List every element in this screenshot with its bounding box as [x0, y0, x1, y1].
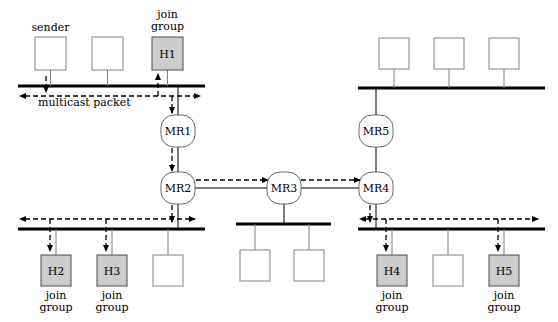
- router-mr4-label: MR4: [363, 182, 390, 195]
- top-right-host-1-box: [379, 38, 409, 69]
- router-mr1-label: MR1: [165, 125, 192, 138]
- bottom-left-host-3: [153, 229, 183, 286]
- bottom-right-host-2-box: [433, 255, 463, 286]
- host-h5-label: H5: [496, 265, 513, 278]
- bottom-mid-host-2: [294, 224, 324, 281]
- router-mr5-label: MR5: [363, 125, 390, 138]
- host-h3-label: H3: [104, 265, 121, 278]
- host-h2: H2joingroup: [39, 229, 72, 314]
- host-h3-group-label: group: [95, 301, 128, 314]
- bottom-mid-host-2-box: [294, 250, 324, 281]
- router-mr5: MR5: [359, 115, 393, 147]
- sender-host: sender: [31, 21, 70, 86]
- host-h5-group-label: group: [487, 301, 520, 314]
- bottom-mid-host-1: [240, 224, 270, 281]
- host-h1-label: H1: [159, 48, 176, 61]
- router-mr1: MR1: [161, 115, 195, 147]
- host-h3: H3joingroup: [95, 229, 128, 314]
- sender-host-box: [35, 37, 66, 70]
- router-mr2: MR2: [161, 172, 195, 204]
- multicast-packet-label: multicast packet: [38, 96, 131, 109]
- host-h2-group-label: group: [39, 301, 72, 314]
- sender-host-caption: sender: [31, 21, 70, 34]
- router-mr4: MR4: [359, 172, 393, 204]
- multicast-diagram: senderH1joingroupH2joingroupH3joingroupH…: [0, 0, 558, 322]
- router-links-layer: [178, 86, 376, 229]
- top-left-host-2: [92, 37, 123, 86]
- host-h4: H4joingroup: [375, 229, 408, 314]
- top-right-host-3-box: [489, 38, 519, 69]
- router-mr3-label: MR3: [271, 182, 298, 195]
- top-right-host-1: [379, 38, 409, 88]
- host-h1-group-label: group: [151, 20, 184, 33]
- host-h4-label: H4: [384, 265, 401, 278]
- top-right-host-2: [434, 38, 464, 88]
- bottom-right-host-2: [433, 229, 463, 286]
- host-h5: H5joingroup: [487, 229, 520, 314]
- router-mr2-label: MR2: [165, 182, 192, 195]
- bottom-mid-host-1-box: [240, 250, 270, 281]
- router-mr3: MR3: [267, 172, 301, 204]
- host-h1: H1joingroup: [151, 8, 184, 86]
- host-h4-group-label: group: [375, 301, 408, 314]
- routers-layer: MR1MR2MR3MR4MR5: [161, 115, 393, 204]
- bottom-left-host-3-box: [153, 255, 183, 286]
- top-right-host-3: [489, 38, 519, 88]
- top-left-host-2-box: [92, 37, 123, 70]
- diagram-canvas: senderH1joingroupH2joingroupH3joingroupH…: [0, 0, 558, 322]
- hosts-layer: senderH1joingroupH2joingroupH3joingroupH…: [31, 8, 520, 314]
- top-right-host-2-box: [434, 38, 464, 69]
- host-h2-label: H2: [48, 265, 65, 278]
